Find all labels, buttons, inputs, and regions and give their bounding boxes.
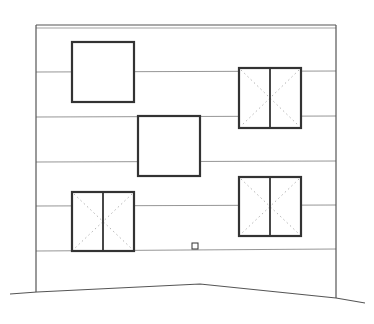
ground-polyline — [10, 284, 365, 303]
window-2 — [239, 68, 301, 128]
window-fill — [138, 116, 200, 176]
vent-icon — [192, 243, 198, 249]
vent-square — [192, 243, 198, 249]
elevation-svg — [0, 0, 374, 324]
window-1 — [72, 42, 134, 102]
elevation-drawing — [0, 0, 374, 324]
window-fill — [72, 42, 134, 102]
window-4 — [72, 192, 134, 251]
windows-group — [72, 42, 301, 251]
window-5 — [239, 177, 301, 236]
ground-line — [10, 284, 365, 303]
window-3 — [138, 116, 200, 176]
